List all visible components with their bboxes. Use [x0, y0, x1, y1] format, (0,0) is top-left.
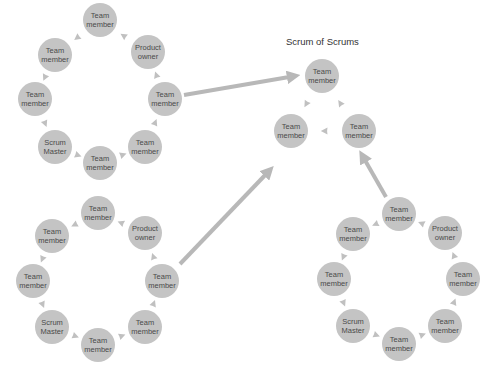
node-team-member: Team member [16, 264, 50, 298]
arrow-icon [321, 128, 328, 135]
node-label: Team member [385, 205, 413, 223]
node-label: Team member [148, 272, 176, 290]
node-team-member: Team member [83, 146, 117, 180]
node-team-member: Team member [35, 219, 69, 253]
node-label: Team member [38, 227, 66, 245]
arrow-icon [118, 334, 125, 340]
node-team-member: Team member [382, 197, 416, 231]
connection-arrow [362, 155, 386, 197]
arrow-icon [373, 331, 380, 337]
arrow-icon [154, 72, 160, 79]
node-team-member: Team member [274, 114, 308, 148]
node-label: Scrum Master [44, 138, 67, 156]
node-label: Team member [339, 225, 367, 243]
node-team-member: Team member [382, 327, 416, 361]
node-label: Team member [449, 270, 477, 288]
node-label: Team member [308, 67, 336, 85]
node-label: Product owner [135, 43, 161, 61]
node-team-member: Team member [145, 264, 179, 298]
node-label: Team member [151, 90, 179, 108]
node-product-owner: Product owner [131, 35, 165, 69]
node-team-member: Team member [148, 82, 182, 116]
arrow-icon [40, 255, 46, 263]
node-label: Team member [131, 318, 159, 336]
arrow-icon [151, 119, 157, 127]
node-team-member: Team member [446, 262, 480, 296]
arrow-icon [38, 300, 44, 308]
node-label: Product owner [432, 224, 458, 242]
node-product-owner: Product owner [128, 216, 162, 250]
node-label: Team member [84, 204, 112, 222]
arrow-icon [119, 153, 127, 159]
node-label: Team member [21, 90, 49, 108]
node-label: Team member [41, 46, 69, 64]
node-label: Team member [320, 270, 348, 288]
arrow-icon [338, 100, 345, 107]
arrow-icon [150, 300, 156, 307]
node-team-member: Team member [317, 262, 351, 296]
node-label: Team member [385, 335, 413, 353]
connection-arrow [184, 76, 295, 95]
arrow-icon [72, 332, 79, 338]
scrum-of-scrums-title: Scrum of Scrums [286, 36, 359, 47]
arrow-icon [452, 252, 458, 259]
arrow-icon [121, 34, 128, 41]
arrow-icon [74, 33, 81, 40]
node-team-member: Team member [305, 59, 339, 93]
arrow-icon [450, 299, 456, 306]
arrow-icon [372, 220, 380, 226]
node-team-member: Team member [18, 82, 52, 116]
arrow-icon [341, 253, 347, 261]
node-label: Team member [431, 317, 459, 335]
node-team-member: Team member [81, 196, 115, 230]
arrow-icon [339, 299, 345, 307]
node-label: Team member [84, 336, 112, 354]
arrow-icon [304, 100, 310, 108]
node-scrum-master: Scrum Master [336, 309, 370, 343]
arrow-icon [41, 119, 47, 127]
node-label: Scrum Master [342, 317, 365, 335]
node-label: Team member [19, 272, 47, 290]
node-label: Team member [131, 138, 159, 156]
arrow-icon [418, 221, 426, 227]
arrow-icon [74, 151, 82, 157]
node-team-member: Team member [38, 38, 72, 72]
node-label: Scrum Master [41, 318, 64, 336]
arrow-icon [43, 73, 49, 81]
node-label: Team member [277, 122, 305, 140]
arrow-icon [419, 333, 426, 339]
arrow-icon [71, 220, 79, 226]
node-label: Team member [345, 122, 373, 140]
node-team-member: Team member [128, 130, 162, 164]
node-team-member: Team member [83, 3, 117, 37]
node-team-member: Team member [81, 328, 115, 362]
node-label: Team member [86, 154, 114, 172]
node-team-member: Team member [342, 114, 376, 148]
node-team-member: Team member [128, 310, 162, 344]
diagram-canvas [0, 0, 494, 372]
node-label: Product owner [132, 224, 158, 242]
node-scrum-master: Scrum Master [38, 130, 72, 164]
node-team-member: Team member [336, 217, 370, 251]
node-team-member: Team member [428, 309, 462, 343]
arrow-icon [118, 221, 126, 227]
connection-arrow [180, 170, 270, 264]
node-product-owner: Product owner [428, 216, 462, 250]
node-label: Team member [86, 11, 114, 29]
cycle-arrows [38, 33, 458, 340]
arrow-icon [151, 253, 157, 261]
node-scrum-master: Scrum Master [35, 310, 69, 344]
